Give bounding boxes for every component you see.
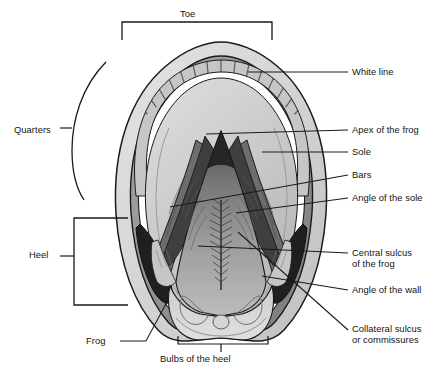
label-apex-of-the-frog: Apex of the frog <box>352 124 419 135</box>
label-toe: Toe <box>180 8 195 19</box>
hoof-capsule <box>81 42 361 341</box>
bulb-cleft-knob <box>213 315 229 329</box>
label-angle-of-the-wall: Angle of the wall <box>352 284 421 295</box>
label-bulbs-of-the-heel: Bulbs of the heel <box>160 353 231 364</box>
label-collateral-sulcus-line2: or commissures <box>352 334 419 345</box>
label-central-sulcus-of-the-frog-line2: of the frog <box>352 258 395 269</box>
bracket-quarters <box>60 62 106 200</box>
label-heel: Heel <box>29 249 48 260</box>
label-bars: Bars <box>352 169 371 180</box>
label-angle-of-the-sole: Angle of the sole <box>352 192 423 203</box>
figure-canvas: Toe Quarters Heel Frog Bulbs of the heel… <box>0 0 442 372</box>
label-collateral-sulcus-line1: Collateral sulcus <box>352 323 421 334</box>
bracket-toe <box>122 22 272 40</box>
label-sole: Sole <box>352 146 371 157</box>
label-quarters: Quarters <box>14 124 51 135</box>
hoof-anatomy-illustration <box>0 0 442 372</box>
label-central-sulcus-of-the-frog-line1: Central sulcus <box>352 247 412 258</box>
label-frog: Frog <box>86 335 105 346</box>
label-white-line: White line <box>352 66 394 77</box>
